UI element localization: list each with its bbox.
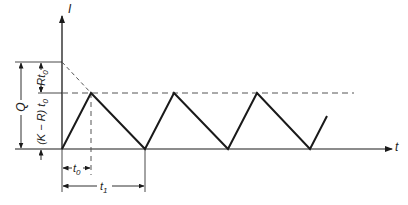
- t0-label: t0: [73, 162, 81, 177]
- rt0-label: Rt0: [35, 70, 50, 86]
- y-axis-label: I: [68, 2, 72, 16]
- slope-extension-dashed: [62, 62, 91, 93]
- t1-label: t1: [100, 180, 108, 195]
- x-axis-label: t: [395, 140, 399, 154]
- kr-t0-label: (K − R) t0: [35, 99, 50, 145]
- q-label: Q: [14, 102, 28, 111]
- sawtooth-diagram: I t Q Rt0 (K − R) t0 t0 t1: [0, 0, 408, 205]
- sawtooth-waveform: [62, 93, 327, 149]
